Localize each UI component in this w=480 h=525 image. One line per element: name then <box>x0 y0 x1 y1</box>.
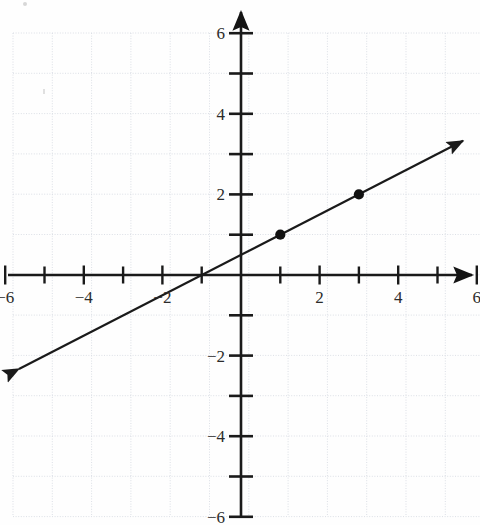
y-tick-label: 2 <box>195 186 225 203</box>
x-tick-label: 2 <box>315 289 324 306</box>
y-tick-label: 4 <box>195 105 225 122</box>
y-tick-label: −2 <box>195 347 225 364</box>
x-tick-label: −2 <box>153 289 171 306</box>
y-tick-label: 6 <box>195 25 225 42</box>
plotted-point <box>275 230 285 240</box>
plotted-point <box>354 189 364 199</box>
x-tick-label: 4 <box>394 289 403 306</box>
y-tick-label: −4 <box>195 428 225 445</box>
x-tick-label: −4 <box>75 289 93 306</box>
axis-lines <box>8 12 472 517</box>
coordinate-plane-figure: −6−4−2246 642−2−4−6 <box>0 0 480 525</box>
x-tick-label: −6 <box>0 289 14 306</box>
y-tick-label: −6 <box>195 508 225 525</box>
x-tick-label: 6 <box>473 289 480 306</box>
plot-area <box>0 0 480 525</box>
